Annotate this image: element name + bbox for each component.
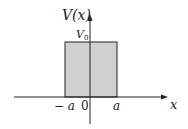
x-axis-label: x <box>170 97 178 112</box>
height-label: V0 <box>76 28 88 42</box>
potential-diagram: V(x) V0 x − a 0 a <box>0 0 188 129</box>
tick-neg-a: − a <box>54 99 75 113</box>
tick-pos-a: a <box>113 99 120 113</box>
potential-region <box>65 42 117 97</box>
x-axis-arrow-icon <box>161 95 168 100</box>
y-axis-label: V(x) <box>62 7 91 23</box>
tick-zero: 0 <box>81 99 89 113</box>
